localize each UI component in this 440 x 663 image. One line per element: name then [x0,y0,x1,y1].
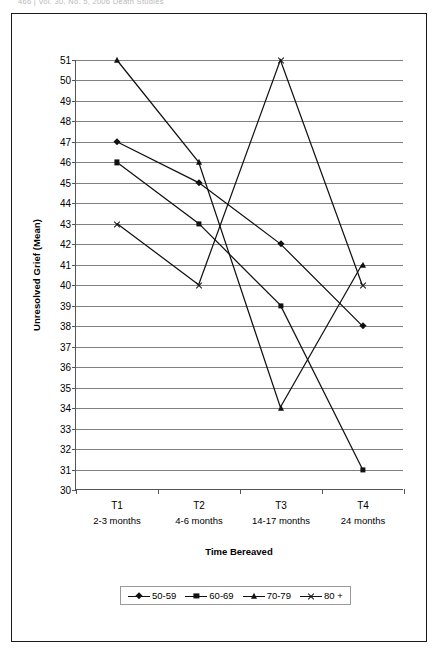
data-point-marker [195,281,203,289]
x-axis-tick-label-sub: 4-6 months [175,513,223,528]
data-point-marker [277,56,285,64]
legend-swatch [185,591,207,601]
y-axis-tick-label: 46 [60,157,71,168]
gridline [76,183,403,184]
y-axis-tick-label: 41 [60,259,71,270]
gridline [76,60,403,61]
y-axis-tick-mark [72,244,76,245]
y-axis-tick-mark [72,449,76,450]
legend-marker [135,592,143,600]
gridline [76,470,403,471]
gridline [76,326,403,327]
data-point-marker [114,160,119,165]
gridline [76,408,403,409]
x-axis-tick-label-main: T4 [341,498,385,513]
legend-entry: 60-69 [185,590,233,601]
x-axis-tick-mark [322,489,323,494]
gridline [76,121,403,122]
y-axis-tick-mark [72,203,76,204]
y-axis-tick-mark [72,101,76,102]
legend-entry: 80 + [300,590,343,601]
legend-label: 80 + [324,590,343,601]
y-axis-tick-label: 45 [60,177,71,188]
y-axis-tick-mark [72,142,76,143]
y-axis-tick-label: 49 [60,95,71,106]
gridline [76,265,403,266]
series-line [117,60,362,285]
y-axis-tick-label: 39 [60,300,71,311]
y-axis-title: Unresolved Grief (Mean) [31,60,45,490]
y-axis-tick-mark [72,121,76,122]
series-line [117,162,362,468]
y-axis-tick-label: 48 [60,116,71,127]
legend-entry: 70-79 [243,590,291,601]
y-axis-tick-label: 37 [60,341,71,352]
x-axis-tick-label: T314-17 months [252,498,310,528]
x-axis-tick-label-sub: 2-3 months [93,513,141,528]
series-line [117,60,362,407]
chart-legend: 50-5960-6970-7980 + [120,586,351,605]
gridline [76,306,403,307]
x-axis-tick-label-main: T3 [252,498,310,513]
y-axis-tick-label: 33 [60,423,71,434]
gridline [76,162,403,163]
y-axis-tick-mark [72,429,76,430]
y-axis-tick-mark [72,388,76,389]
y-axis-tick-label: 32 [60,444,71,455]
x-axis-tick-label-sub: 24 months [341,513,385,528]
y-axis-tick-label: 31 [60,464,71,475]
data-point-marker [360,261,366,267]
data-point-marker [360,467,365,472]
y-axis-tick-mark [72,162,76,163]
y-axis-tick-label: 36 [60,362,71,373]
y-axis-tick-label: 30 [60,485,71,496]
y-axis-tick-label: 47 [60,136,71,147]
legend-entry: 50-59 [128,590,176,601]
gridline [76,367,403,368]
gridline [76,429,403,430]
y-axis-tick-label: 38 [60,321,71,332]
gridline [76,224,403,225]
y-axis-tick-label: 43 [60,218,71,229]
gridline [76,142,403,143]
gridline [76,101,403,102]
figure-frame: Unresolved Grief (Mean) 5150494847464544… [11,13,427,642]
x-axis-tick-label-main: T2 [175,498,223,513]
x-axis-tick-label-sub: 14-17 months [252,513,310,528]
y-axis-tick-mark [72,224,76,225]
y-axis-tick-label: 35 [60,382,71,393]
data-point-marker [113,220,121,228]
x-axis-tick-label-main: T1 [93,498,141,513]
gridline [76,388,403,389]
y-axis-tick-label: 34 [60,403,71,414]
data-point-marker [114,57,120,63]
series-lines [76,60,403,489]
legend-label: 60-69 [209,590,233,601]
data-point-marker [196,221,201,226]
y-axis-tick-mark [72,470,76,471]
data-point-marker [195,179,203,187]
gridline [76,203,403,204]
x-axis-title: Time Bereaved [75,546,403,557]
gridline [76,285,403,286]
data-point-marker [196,159,202,165]
legend-label: 70-79 [267,590,291,601]
gridline [76,80,403,81]
y-axis-tick-mark [72,408,76,409]
gridline [76,244,403,245]
x-axis-tick-mark [76,489,77,494]
running-head: 466 | Vol. 30, No. 5, 2006 Death Studies [18,0,164,6]
y-axis-tick-mark [72,265,76,266]
plot-area: 5150494847464544434241403938373635343332… [75,60,403,490]
legend-marker [307,592,315,600]
gridline [76,347,403,348]
y-axis-tick-mark [72,367,76,368]
legend-swatch [128,591,150,601]
legend-marker [251,592,257,598]
y-axis-tick-label: 42 [60,239,71,250]
x-axis-tick-mark [158,489,159,494]
legend-swatch [243,591,265,601]
data-point-marker [359,322,367,330]
y-axis-tick-mark [72,183,76,184]
y-axis-tick-label: 40 [60,280,71,291]
